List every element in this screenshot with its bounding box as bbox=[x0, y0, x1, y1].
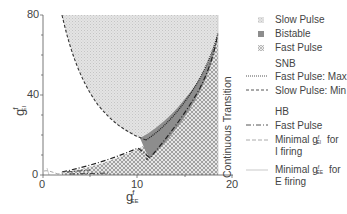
phase-diagram-chart bbox=[0, 0, 347, 214]
x-tick-0: 0 bbox=[39, 178, 45, 190]
x-label-sup: f bbox=[132, 188, 134, 197]
y-tick-80: 80 bbox=[27, 8, 39, 20]
min-gee-e-firing-line bbox=[47, 168, 49, 175]
continuous-transition-label: Continuous Transition bbox=[221, 76, 233, 178]
bistable-tip-marker bbox=[146, 158, 148, 160]
x-label-sub: EE bbox=[130, 198, 138, 204]
legend-symbols bbox=[246, 17, 268, 170]
y-label-sup: f bbox=[11, 108, 20, 110]
y-tick-40: 40 bbox=[27, 88, 39, 100]
x-axis-label: gfEE bbox=[126, 189, 143, 204]
y-label-sub: EI bbox=[21, 106, 27, 112]
y-ticks bbox=[40, 15, 43, 175]
y-tick-0: 0 bbox=[32, 168, 38, 180]
y-axis-label: gfEI bbox=[12, 101, 27, 116]
x-tick-20: 20 bbox=[226, 178, 238, 190]
